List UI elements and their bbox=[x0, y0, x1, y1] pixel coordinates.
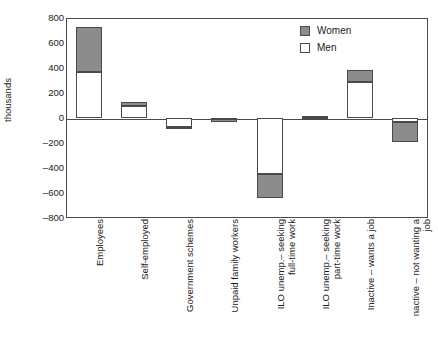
y-tick-label: 400 bbox=[4, 63, 64, 73]
bar-segment-men bbox=[302, 118, 328, 120]
bar-segment-men bbox=[76, 72, 102, 118]
bar-segment-women bbox=[76, 27, 102, 72]
bar-segment-women bbox=[211, 119, 237, 122]
y-tick-label: –200 bbox=[4, 138, 64, 148]
bar-group bbox=[392, 18, 418, 218]
x-tick-label: Unpaid family workers bbox=[229, 219, 259, 345]
y-tick-label: 800 bbox=[4, 13, 64, 23]
chart-legend: Women Men bbox=[300, 22, 351, 56]
bar-segment-women bbox=[392, 122, 418, 141]
x-tick-label: Government schemes bbox=[184, 219, 214, 345]
y-tick-label: 200 bbox=[4, 88, 64, 98]
bar-segment-men bbox=[121, 106, 147, 118]
legend-swatch-men-icon bbox=[300, 43, 310, 53]
y-tick-label: 0 bbox=[4, 113, 64, 123]
x-tick-label: nactive – not wanting a job bbox=[410, 219, 438, 345]
bar-segment-women bbox=[257, 174, 283, 198]
bars-layer bbox=[66, 18, 428, 218]
x-tick-label: ILO unemp.– seeking full-time work bbox=[275, 219, 305, 345]
legend-swatch-women-icon bbox=[300, 26, 310, 36]
y-tick-label: –600 bbox=[4, 188, 64, 198]
bar-chart: thousands 8006004002000–200–400–600–800 … bbox=[0, 0, 438, 348]
bar-group bbox=[121, 18, 147, 218]
bar-segment-women bbox=[347, 70, 373, 82]
legend-label-women: Women bbox=[317, 25, 351, 36]
bar-group bbox=[211, 18, 237, 218]
bar-group bbox=[76, 18, 102, 218]
bar-segment-women bbox=[166, 127, 192, 130]
legend-label-men: Men bbox=[317, 42, 336, 53]
bar-segment-women bbox=[302, 116, 328, 118]
y-tick-label: –400 bbox=[4, 163, 64, 173]
y-tick-label: 600 bbox=[4, 38, 64, 48]
bar-segment-women bbox=[121, 102, 147, 106]
bar-segment-men bbox=[257, 118, 283, 174]
legend-item-men: Men bbox=[300, 39, 351, 56]
legend-item-women: Women bbox=[300, 22, 351, 39]
bar-segment-men bbox=[166, 118, 192, 127]
x-tick-label: ILO unemp.– seeking part-time work bbox=[320, 219, 350, 345]
bar-segment-men bbox=[347, 82, 373, 118]
x-tick-label: Self-employed bbox=[139, 219, 169, 345]
bar-group bbox=[166, 18, 192, 218]
x-axis-tick-labels: EmployeesSelf-employedGovernment schemes… bbox=[66, 219, 438, 348]
x-tick-label: Inactive – wants a job bbox=[365, 219, 395, 345]
x-tick-label: Employees bbox=[94, 219, 124, 345]
y-tick-label: –800 bbox=[4, 213, 64, 223]
bar-group bbox=[257, 18, 283, 218]
